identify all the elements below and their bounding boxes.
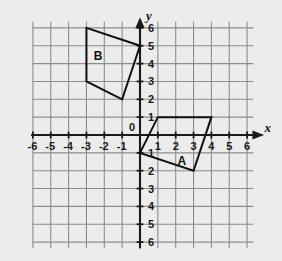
x-tick-label-4: 4 — [208, 141, 214, 152]
y-axis-arrowhead — [135, 17, 144, 28]
y-tick-label--2: 2 — [148, 165, 154, 176]
shape-label-a: A — [178, 155, 187, 167]
y-tick-label-4: 4 — [148, 58, 154, 69]
x-tick-label--5: -5 — [45, 141, 55, 152]
coordinate-grid-svg — [0, 0, 282, 261]
x-tick-label-1: 1 — [155, 141, 161, 152]
y-tick-label-5: 5 — [148, 40, 154, 51]
y-tick-label--1: 1 — [148, 147, 154, 158]
y-tick-label--4: 4 — [148, 201, 154, 212]
coordinate-plane-figure: -6-5-4-3-2-11234566543211234560xyAB — [0, 0, 282, 261]
x-axis-label: x — [264, 121, 271, 134]
x-tick-label--4: -4 — [63, 141, 73, 152]
origin-label: 0 — [129, 122, 135, 133]
x-tick-label-2: 2 — [173, 141, 179, 152]
y-tick-label-1: 1 — [148, 112, 154, 123]
x-tick-label--3: -3 — [81, 141, 91, 152]
shape-label-b: B — [94, 50, 103, 62]
y-tick-label--6: 6 — [148, 237, 154, 248]
x-tick-label--2: -2 — [99, 141, 109, 152]
y-tick-label-3: 3 — [148, 76, 154, 87]
y-tick-label--3: 3 — [148, 183, 154, 194]
x-tick-label-5: 5 — [226, 141, 232, 152]
x-tick-label-3: 3 — [190, 141, 196, 152]
y-tick-label-2: 2 — [148, 94, 154, 105]
x-tick-label-6: 6 — [244, 141, 250, 152]
y-axis-label: y — [146, 8, 152, 21]
y-tick-label--5: 5 — [148, 219, 154, 230]
x-axis-arrowhead — [252, 130, 264, 139]
x-tick-label--6: -6 — [28, 141, 38, 152]
y-tick-label-6: 6 — [148, 22, 154, 33]
x-tick-label--1: -1 — [117, 141, 127, 152]
